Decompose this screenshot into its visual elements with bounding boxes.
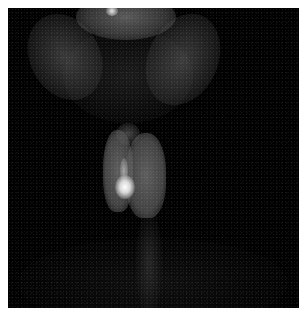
scan-noise	[8, 8, 299, 308]
scan-image	[8, 8, 299, 308]
